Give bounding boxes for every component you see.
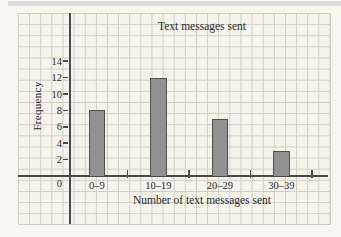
y-tick-label: 12	[44, 72, 62, 83]
y-tick	[63, 110, 68, 112]
y-axis-label: Frequency	[31, 76, 45, 136]
bar-0–9	[89, 110, 106, 176]
y-tick	[63, 159, 68, 161]
y-tick-label: 6	[44, 121, 62, 132]
x-tick	[127, 170, 129, 178]
y-tick-label: 8	[44, 105, 62, 116]
x-tick	[250, 170, 252, 178]
y-tick	[63, 60, 68, 62]
y-tick-label: 14	[44, 56, 62, 67]
x-category-label: 10–19	[128, 180, 188, 191]
x-axis-label: Number of text messages sent	[112, 194, 292, 206]
x-category-label: 30–39	[251, 180, 311, 191]
chart-title: Text messages sent	[158, 20, 298, 32]
y-tick	[63, 77, 68, 79]
x-category-label: 20–29	[190, 180, 250, 191]
y-tick	[63, 142, 68, 144]
bar-20–29	[212, 119, 229, 176]
top-divider	[8, 1, 341, 6]
x-category-label: 0–9	[67, 180, 127, 191]
bar-30–39	[273, 151, 290, 176]
y-tick	[63, 93, 68, 95]
y-tick-label: 2	[44, 154, 62, 165]
page: { "chart_data": { "type": "bar", "title"…	[0, 0, 341, 237]
y-tick-label: 10	[44, 89, 62, 100]
y-axis-line	[69, 13, 71, 224]
origin-label: 0	[46, 178, 62, 189]
x-tick	[188, 170, 190, 178]
x-tick	[311, 170, 313, 178]
bar-10–19	[150, 78, 167, 176]
y-tick	[63, 126, 68, 128]
y-tick-label: 4	[44, 138, 62, 149]
